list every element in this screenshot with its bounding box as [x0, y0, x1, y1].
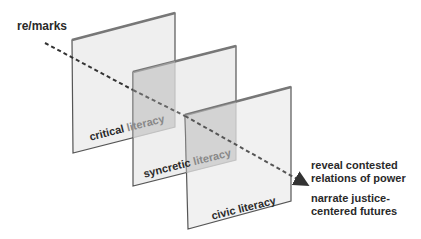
outcome-narrate: narrate justice- centered futures [311, 192, 397, 218]
start-label: re/marks [17, 19, 67, 33]
outcome-reveal: reveal contested relations of power [311, 159, 406, 185]
